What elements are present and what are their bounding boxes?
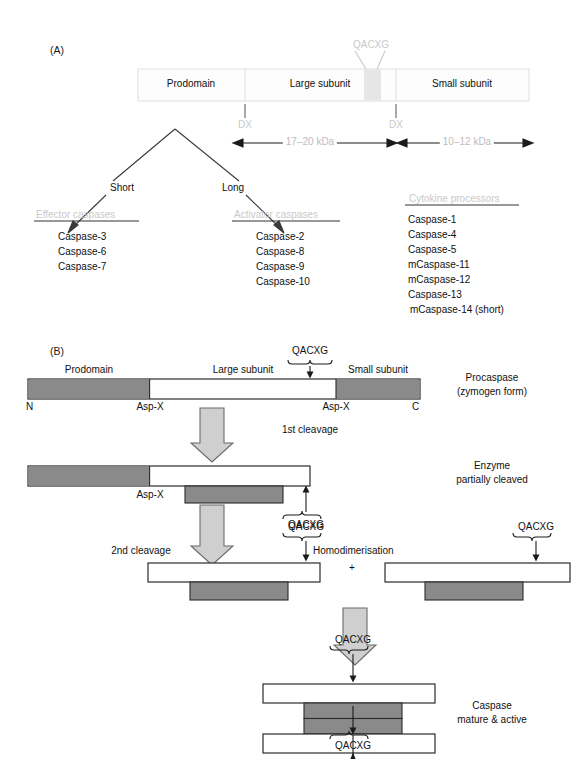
stage4-qacxg-brace-bottom xyxy=(330,706,368,739)
stage4-bottom-brace-group xyxy=(0,0,587,759)
stage4-bottom-arrow xyxy=(349,735,357,759)
caspase-activation-figure: (A) xyxy=(0,0,587,759)
